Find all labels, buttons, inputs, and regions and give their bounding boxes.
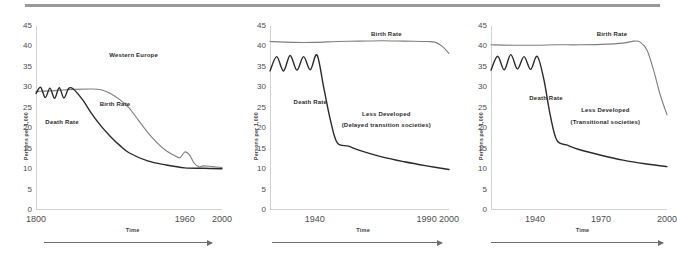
annotation-birth-rate: Birth Rate <box>371 31 402 37</box>
y-tick-label: 30 <box>12 83 32 91</box>
chart-lines-3 <box>491 26 667 210</box>
y-tick-label: 45 <box>467 22 487 30</box>
chart-western-europe: Persons per 1,000 4540353025201510501800… <box>0 14 230 258</box>
series-line-death-rate <box>36 87 222 168</box>
y-tick-label: 5 <box>246 186 266 194</box>
annotation-birth-rate: Birth Rate <box>100 101 131 107</box>
chart-lines-2 <box>270 26 449 210</box>
plot-area-3 <box>491 26 667 210</box>
x-tick-label: 2000 <box>212 214 232 224</box>
x-axis-title: Time <box>126 227 140 233</box>
y-axis-label: Persons per 1,000 <box>253 112 259 160</box>
y-tick-label: 35 <box>12 63 32 71</box>
annotation-delayed-transition-societies: (Delayed transition societies) <box>342 122 431 128</box>
y-tick-label: 20 <box>246 124 266 132</box>
series-line-birth-rate <box>491 41 667 115</box>
y-tick-label: 45 <box>246 22 266 30</box>
annotation-transitional-societies: (Transitional societies) <box>570 119 640 125</box>
annotation-death-rate: Death Rate <box>529 95 562 101</box>
annotation-less-developed: Less Developed <box>362 111 411 117</box>
y-tick-label: 35 <box>467 63 487 71</box>
y-tick-label: 5 <box>12 186 32 194</box>
y-tick-label: 15 <box>246 145 266 153</box>
y-tick-label: 40 <box>12 42 32 50</box>
x-tick-label: 1990 <box>417 214 437 224</box>
y-tick-label: 20 <box>467 124 487 132</box>
y-tick-label: 25 <box>12 104 32 112</box>
plot-area-2 <box>270 26 449 210</box>
annotation-less-developed: Less Developed <box>581 107 630 113</box>
time-arrow-2 <box>272 242 442 243</box>
x-tick-label: 1940 <box>305 214 325 224</box>
x-tick-label: 2000 <box>657 214 677 224</box>
x-tick-label: 1940 <box>525 214 545 224</box>
y-tick-label: 45 <box>12 22 32 30</box>
time-arrow-3 <box>491 242 663 243</box>
chart-row: Persons per 1,000 4540353025201510501800… <box>0 14 675 258</box>
series-line-death-rate <box>491 55 667 167</box>
y-tick-label: 5 <box>467 186 487 194</box>
y-tick-label: 10 <box>12 165 32 173</box>
x-tick-label: 1970 <box>591 214 611 224</box>
series-line-birth-rate <box>270 41 449 54</box>
x-axis-title: Time <box>576 227 590 233</box>
x-tick-label: 1960 <box>175 214 195 224</box>
header-rule <box>25 4 660 7</box>
y-tick-label: 10 <box>467 165 487 173</box>
y-tick-label: 15 <box>467 145 487 153</box>
y-tick-label: 0 <box>12 206 32 214</box>
x-axis-title: Time <box>356 227 370 233</box>
y-tick-label: 35 <box>246 63 266 71</box>
y-tick-label: 40 <box>467 42 487 50</box>
y-axis-label: Persons per 1,000 <box>478 112 484 160</box>
series-line-death-rate <box>270 55 449 170</box>
y-tick-label: 10 <box>246 165 266 173</box>
y-tick-label: 15 <box>12 145 32 153</box>
y-tick-label: 0 <box>246 206 266 214</box>
x-tick-label: 1800 <box>26 214 46 224</box>
annotation-death-rate: Death Rate <box>294 99 327 105</box>
time-arrow-1 <box>44 242 212 243</box>
annotation-death-rate: Death Rate <box>45 119 78 125</box>
y-tick-label: 0 <box>467 206 487 214</box>
y-tick-label: 30 <box>467 83 487 91</box>
y-tick-label: 25 <box>246 104 266 112</box>
chart-less-developed-transitional: Persons per 1,000 4540353025201510501940… <box>455 14 675 258</box>
y-tick-label: 20 <box>12 124 32 132</box>
annotation-birth-rate: Birth Rate <box>597 31 628 37</box>
chart-less-developed-delayed: Persons per 1,000 4540353025201510501940… <box>230 14 455 258</box>
y-tick-label: 40 <box>246 42 266 50</box>
y-tick-label: 25 <box>467 104 487 112</box>
y-tick-label: 30 <box>246 83 266 91</box>
annotation-western-europe: Western Europe <box>109 52 158 58</box>
